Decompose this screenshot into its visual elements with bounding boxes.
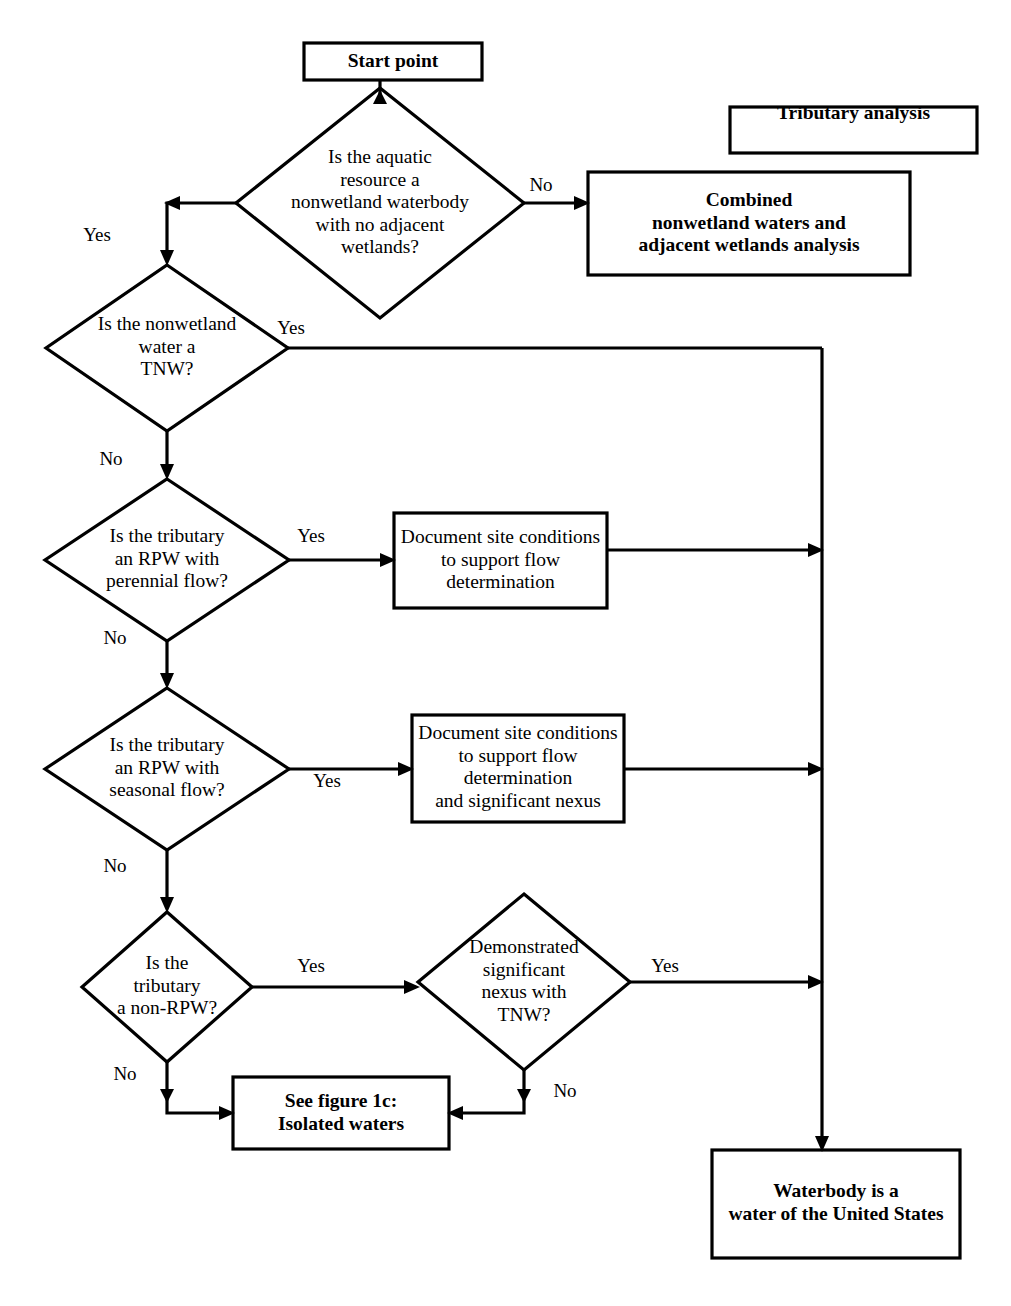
arrowhead-nonrpw-no-down [160,1089,174,1103]
node-label-doc-seasonal: Document site conditions to support flow… [412,722,624,812]
node-label-waterbody-result: Waterbody is a water of the United State… [712,1180,960,1225]
node-label-isolated-waters: See figure 1c: Isolated waters [233,1090,449,1135]
edge-label-seasonal-no: No [90,855,140,877]
edge-label-aquatic-no: No [516,174,566,196]
edge-label-nexus-no: No [540,1080,590,1102]
node-label-tributary-analysis: Tributary analysis [730,102,977,125]
arrowhead-tnw-no [160,464,174,480]
node-label-q-non-rpw: Is the tributary a non-RPW? [62,952,272,1020]
edge-label-tnw-yes: Yes [266,317,316,339]
node-label-doc-perennial: Document site conditions to support flow… [394,526,607,594]
edge-nexus-no [459,1070,524,1113]
edge-nonrpw-no [167,1062,223,1113]
edge-label-seasonal-yes: Yes [302,770,352,792]
node-label-q-rpw-perennial: Is the tributary an RPW with perennial f… [56,525,278,593]
node-label-start: Start point [304,50,482,73]
edge-label-nexus-yes: Yes [640,955,690,977]
node-label-combined-analysis: Combined nonwetland waters and adjacent … [588,189,910,257]
arrowhead-seasonal-no [160,897,174,913]
edge-aquatic-yes [167,203,236,252]
edge-label-aquatic-yes: Yes [72,224,122,246]
edge-label-tnw-no: No [86,448,136,470]
edge-label-perennial-yes: Yes [286,525,336,547]
arrowhead-aquatic-yes-down [160,250,174,266]
edge-label-perennial-no: No [90,627,140,649]
arrowhead-nexus-no-down [517,1089,531,1103]
node-label-q-significant-nexus: Demonstrated significant nexus with TNW? [434,936,614,1026]
edge-label-nonrpw-yes: Yes [286,955,336,977]
node-label-q-tnw: Is the nonwetland water a TNW? [56,313,278,381]
node-label-q-aquatic-resource: Is the aquatic resource a nonwetland wat… [255,146,505,259]
flowchart-canvas: Start point Tributary analysis Is the aq… [0,0,1011,1306]
node-label-q-rpw-seasonal: Is the tributary an RPW with seasonal fl… [56,734,278,802]
arrowhead-perennial-no [160,673,174,689]
edge-label-nonrpw-no: No [100,1063,150,1085]
